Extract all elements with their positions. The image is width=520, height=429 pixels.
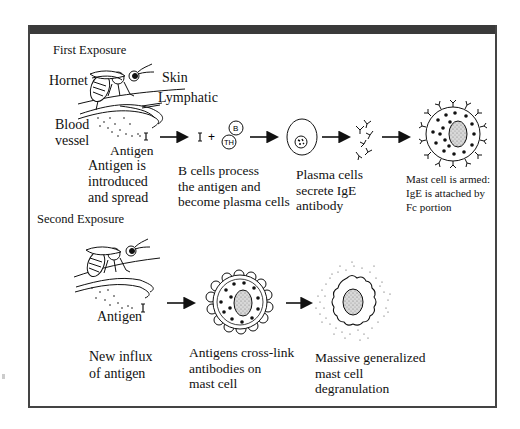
label-blood: Blood [55,117,89,133]
hornet-skin-illustration-2 [74,239,160,298]
second-exposure-heading: Second Exposure [37,212,124,226]
b-cell-label: B [233,124,238,133]
label-vessel: vessel [55,133,89,149]
step-antigens-cross-link: Antigens cross-link antibodies on mast c… [189,345,294,392]
antigen-dots-1 [97,117,141,137]
armed-mast-cell [419,100,487,168]
first-exposure-heading: First Exposure [53,43,126,57]
step-b-cells-process: B cells process the antigen and become p… [178,163,290,210]
antigen-symbol-2 [198,133,202,141]
label-antigen: Antigen [110,143,154,158]
step-mast-cell-armed: Mast cell is armed: IgE is attached by F… [406,172,490,214]
step-antigen-introduced: Antigen is introduced and spread [88,158,148,206]
plus-sign: + [208,130,215,144]
label-lymphatic: Lymphatic [158,90,218,106]
cross-linked-mast-cell [206,270,273,334]
label-skin: Skin [162,70,188,86]
plasma-cell [287,119,317,155]
th-cell-label: TH [224,138,234,147]
antigen-symbol-1 [144,133,148,140]
label-antigen-2: Antigen [97,309,142,325]
antigen-dots-2 [91,287,133,309]
ige-antibodies [356,120,373,160]
label-hornet: Hornet [49,73,88,89]
step-new-influx: New influx of antigen [89,348,152,382]
step-plasma-cells: Plasma cells secrete IgE antibody [296,167,363,214]
step-massive-degranulation: Massive generalized mast cell degranulat… [315,350,426,397]
degranulating-mast-cell [315,261,390,340]
